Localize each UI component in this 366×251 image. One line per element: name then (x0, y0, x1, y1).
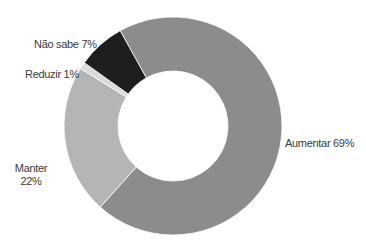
label-aumentar: Aumentar 69% (285, 137, 354, 150)
label-manter-value: 22% (14, 175, 48, 188)
label-manter-name: Manter (14, 162, 48, 175)
label-reduzir: Reduzir 1% (25, 68, 79, 81)
label-manter: Manter 22% (14, 162, 48, 188)
label-nao-sabe: Não sabe 7% (34, 38, 97, 51)
